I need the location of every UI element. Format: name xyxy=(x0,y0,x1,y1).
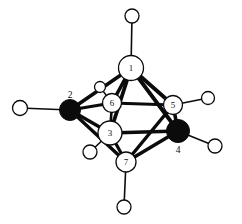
atom-label-2: 2 xyxy=(68,90,73,100)
cluster-atom-3 xyxy=(98,121,122,145)
cluster-atom-2 xyxy=(60,100,81,121)
terminal-atom-h3 xyxy=(83,145,97,159)
cluster-atom-5 xyxy=(164,96,183,115)
cluster-atom-4 xyxy=(167,120,190,143)
terminal-atom-h6 xyxy=(95,82,106,93)
atom-label-4: 4 xyxy=(176,145,181,155)
terminal-atom-h7 xyxy=(117,200,131,214)
terminal-atom-h2 xyxy=(13,101,28,116)
molecule-svg: 1234567 xyxy=(0,0,242,224)
cluster-atom-1 xyxy=(119,56,144,81)
cluster-vertices-layer xyxy=(60,56,190,173)
cluster-atom-6 xyxy=(103,94,122,113)
molecular-structure-figure: 1234567 xyxy=(0,0,242,224)
terminal-atom-h4 xyxy=(208,139,222,153)
terminal-atom-h1 xyxy=(125,9,139,23)
terminal-atom-h5 xyxy=(202,92,215,105)
cluster-atom-7 xyxy=(116,152,136,172)
